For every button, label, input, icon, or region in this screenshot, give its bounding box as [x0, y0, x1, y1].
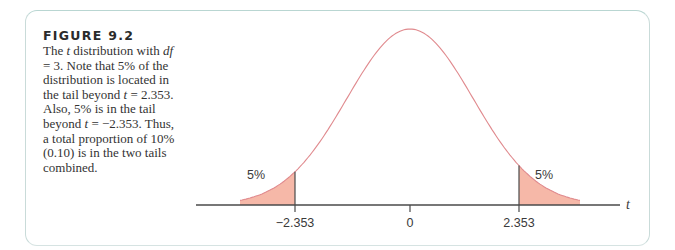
right-tail-label: 5% [535, 168, 553, 182]
tick-label-pos: 2.353 [503, 216, 534, 230]
tick-label-neg: −2.353 [276, 216, 315, 230]
t-distribution-chart: −2.353 0 2.353 5% 5% t [0, 0, 675, 250]
tick-label-zero: 0 [407, 216, 414, 230]
distribution-curve [240, 29, 580, 200]
x-axis-label: t [626, 197, 631, 212]
left-tail-label: 5% [247, 168, 265, 182]
